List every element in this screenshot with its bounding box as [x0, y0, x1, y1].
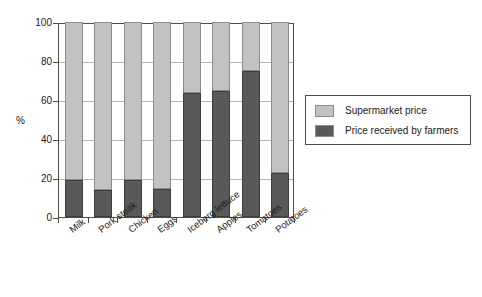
x-tick-mark — [88, 218, 89, 223]
x-tick-mark — [294, 218, 295, 223]
bar-segment-supermarket-price — [242, 22, 260, 71]
legend-swatch-supermarket-price — [315, 105, 334, 117]
x-tick-mark — [58, 218, 59, 223]
x-tick-mark — [147, 218, 148, 223]
y-tick-label-100: 100 — [22, 18, 52, 28]
x-tick-mark — [117, 218, 118, 223]
y-tick-label-40: 40 — [22, 135, 52, 145]
x-tick-mark — [235, 218, 236, 223]
chart-legend: Supermarket price Price received by farm… — [305, 95, 471, 145]
bar-segment-supermarket-price — [212, 22, 230, 91]
x-axis-label: Milk — [67, 216, 87, 235]
x-tick-mark — [265, 218, 266, 223]
y-tick-label-20: 20 — [22, 174, 52, 184]
legend-item-supermarket-price: Supermarket price — [315, 104, 427, 118]
bar-segment-supermarket-price — [124, 22, 142, 180]
legend-label-supermarket-price: Supermarket price — [345, 105, 427, 117]
stacked-bar-chart: % 100 80 60 40 20 0 MilkPork steakChicke… — [0, 0, 482, 297]
legend-swatch-farmer-price — [315, 125, 334, 137]
bar-segment-supermarket-price — [183, 22, 201, 93]
bar-segment-farmer-price — [94, 190, 112, 217]
bar-segment-farmer-price — [242, 71, 260, 217]
legend-item-farmer-price: Price received by farmers — [315, 124, 458, 138]
x-tick-mark — [206, 218, 207, 223]
y-tick-label-60: 60 — [22, 96, 52, 106]
bar-segment-farmer-price — [183, 93, 201, 217]
y-tick-label-0: 0 — [22, 213, 52, 223]
bar-segment-supermarket-price — [94, 22, 112, 190]
y-tick-label-80: 80 — [22, 57, 52, 67]
y-axis-ticks: 100 80 60 40 20 0 — [20, 23, 52, 218]
bar-segment-supermarket-price — [65, 22, 83, 180]
x-tick-mark — [176, 218, 177, 223]
bar-segment-supermarket-price — [271, 22, 289, 173]
bar-segment-farmer-price — [65, 180, 83, 217]
bar-segment-supermarket-price — [153, 22, 171, 189]
plot-area — [58, 23, 294, 218]
legend-label-farmer-price: Price received by farmers — [345, 125, 458, 137]
